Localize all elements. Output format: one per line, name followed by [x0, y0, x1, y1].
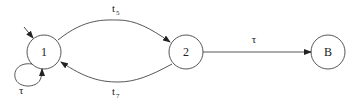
state-node-1[interactable]: 1: [27, 35, 61, 69]
edge-label-tau-self-loop: τ: [19, 84, 24, 96]
state-diagram: 1 2 B t5 t7 τ τ: [0, 0, 356, 105]
edge-2-to-1: [61, 62, 172, 82]
state-node-2[interactable]: 2: [169, 35, 203, 69]
state-node-1-label: 1: [41, 45, 47, 59]
edge-1-to-2: [58, 20, 170, 42]
edge-label-t5: t5: [112, 2, 120, 17]
state-node-b[interactable]: B: [311, 35, 345, 69]
edge-label-tau-2-b: τ: [252, 33, 257, 45]
state-node-2-label: 2: [183, 45, 189, 59]
edge-label-t7: t7: [112, 85, 120, 100]
initial-state-arrow: [24, 27, 33, 38]
state-node-b-label: B: [324, 45, 332, 59]
